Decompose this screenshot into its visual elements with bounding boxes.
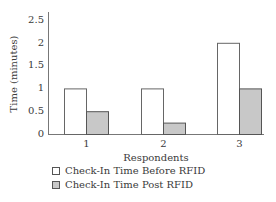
bar-before-1 xyxy=(65,89,87,135)
y-tick-2-5: 2.5 xyxy=(28,14,44,25)
y-axis-title: Time (minutes) xyxy=(8,35,19,112)
bar-post-1 xyxy=(87,112,109,135)
x-tick-3: 3 xyxy=(236,138,242,149)
y-tick-2: 2 xyxy=(38,37,44,48)
legend-swatch-white-icon xyxy=(52,167,60,175)
y-tick-1-5: 1.5 xyxy=(28,59,44,70)
x-tick-1: 1 xyxy=(83,138,89,149)
legend-item-post-rfid: Check-In Time Post RFID xyxy=(52,178,205,192)
bar-before-3 xyxy=(218,43,240,134)
bar-post-3 xyxy=(240,89,262,135)
x-tick-2: 2 xyxy=(160,138,166,149)
bar-before-2 xyxy=(142,89,164,135)
y-tick-0: 0 xyxy=(38,128,44,139)
x-tick-labels: 1 2 3 xyxy=(83,138,242,149)
y-tick-0-5: 0.5 xyxy=(28,105,44,116)
y-tick-1: 1 xyxy=(38,82,44,93)
legend-item-before-rfid: Check-In Time Before RFID xyxy=(52,164,205,178)
y-tick-labels: 0 0.5 1 1.5 2 2.5 xyxy=(28,14,44,139)
legend-swatch-gray-icon xyxy=(52,181,60,189)
x-axis-title: Respondents xyxy=(123,152,188,163)
legend: Check-In Time Before RFID Check-In Time … xyxy=(52,164,205,192)
legend-label-post-rfid: Check-In Time Post RFID xyxy=(65,178,193,192)
bar-post-2 xyxy=(164,123,186,134)
legend-label-before-rfid: Check-In Time Before RFID xyxy=(65,164,205,178)
